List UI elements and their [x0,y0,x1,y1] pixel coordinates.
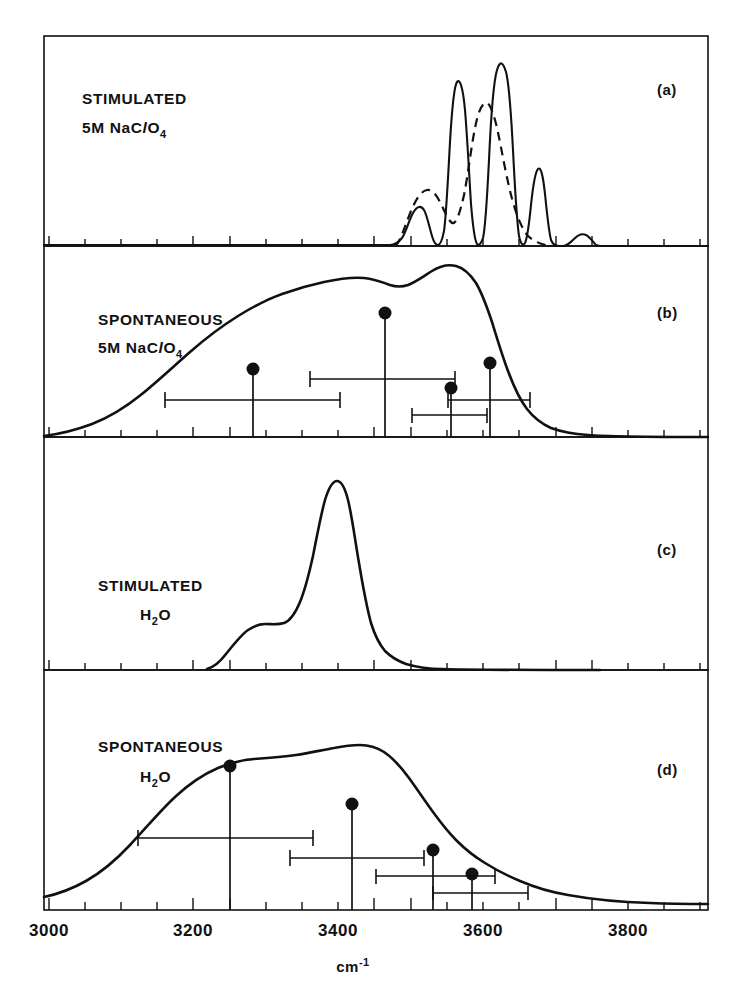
figure-background [0,0,743,990]
panel-b-band-1-marker [247,363,260,376]
panel-a-tag: (a) [657,81,677,98]
panel-c-label-line1: STIMULATED [98,577,203,594]
x-tick-label-3200: 3200 [173,921,213,940]
panel-d-band-1-marker [224,760,237,773]
x-tick-label-3600: 3600 [463,921,503,940]
panel-d-label-line1: SPONTANEOUS [98,738,223,755]
panel-d-band-2-marker [346,798,359,811]
panel-b-label-line1: SPONTANEOUS [98,311,223,328]
raman-spectra-figure: STIMULATED 5M NaClO4 (a) [0,0,743,990]
panel-d-band-4-marker [466,868,479,881]
panel-b-band-3-marker [445,382,458,395]
panel-d-band-3-marker [427,844,440,857]
panel-b-tag: (b) [657,304,678,321]
figure-svg: STIMULATED 5M NaClO4 (a) [0,0,743,990]
x-tick-label-3800: 3800 [608,921,648,940]
x-tick-label-3000: 3000 [29,921,69,940]
panel-c-tag: (c) [657,541,677,558]
panel-a-label-line1: STIMULATED [82,90,187,107]
panel-b-band-4-marker [484,357,497,370]
panel-b-band-2-marker [379,307,392,320]
x-tick-label-3400: 3400 [318,921,358,940]
panel-d-tag: (d) [657,761,678,778]
